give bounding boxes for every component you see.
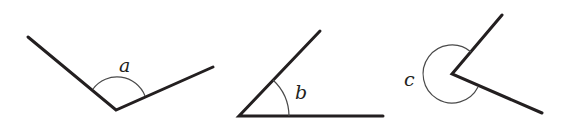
angle-b-label: b	[295, 81, 307, 103]
angle-c: c	[404, 15, 542, 113]
angles-diagram: a b c	[0, 0, 570, 120]
angle-a-label: a	[119, 54, 130, 76]
angle-b-arc	[273, 80, 289, 116]
angle-b-rays	[239, 31, 383, 116]
angle-a: a	[28, 37, 213, 110]
angle-b: b	[239, 31, 383, 116]
angle-a-arc	[93, 77, 145, 96]
angle-c-label: c	[404, 68, 415, 90]
angle-c-rays	[452, 15, 542, 113]
